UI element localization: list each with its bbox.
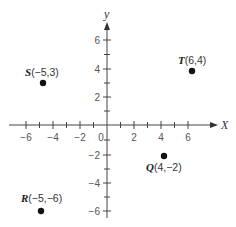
- x-axis-label: X: [220, 118, 229, 132]
- point-label: R(−5,−6): [20, 192, 62, 204]
- x-tick-label: −2: [74, 132, 86, 143]
- y-tick-label: 2: [94, 92, 100, 103]
- x-tick-label: −6: [20, 132, 32, 143]
- y-tick-label: 6: [94, 35, 100, 46]
- x-axis-arrow-icon: [210, 122, 218, 128]
- x-tick-label: 4: [158, 132, 164, 143]
- y-axis-label: y: [103, 7, 110, 21]
- point-marker: [40, 80, 46, 86]
- x-axis: [9, 121, 218, 129]
- point-label: S(−5,3): [25, 66, 59, 78]
- point-t: T(6,4): [178, 54, 206, 74]
- y-tick-label: −4: [89, 178, 101, 189]
- y-tick-label: 4: [94, 64, 100, 75]
- y-tick-label: −2: [89, 150, 101, 161]
- point-marker: [161, 153, 167, 159]
- point-label: T(6,4): [178, 54, 206, 66]
- origin-label: 0: [98, 132, 104, 143]
- point-q: Q(4,−2): [146, 153, 182, 173]
- x-tick-label: −4: [47, 132, 59, 143]
- point-marker: [38, 208, 44, 214]
- y-axis-arrow-icon: [104, 22, 110, 30]
- coordinate-plane: X −6 −4 −2 0 2 4 6 y 6 4 2 −2 −4 −6: [0, 0, 236, 227]
- point-s: S(−5,3): [25, 66, 59, 86]
- point-marker: [189, 68, 195, 74]
- x-tick-label: 6: [185, 132, 191, 143]
- point-label: Q(4,−2): [146, 161, 182, 173]
- point-r: R(−5,−6): [20, 192, 62, 214]
- y-axis: [103, 22, 111, 218]
- y-tick-label: −6: [89, 206, 101, 217]
- x-tick-label: 2: [131, 132, 137, 143]
